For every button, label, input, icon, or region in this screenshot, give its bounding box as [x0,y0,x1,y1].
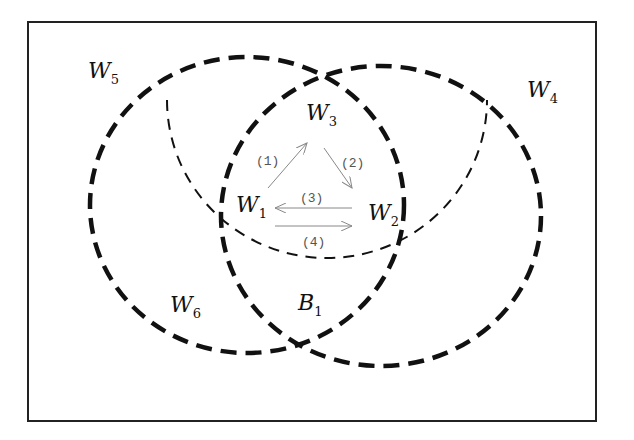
venn-diagram: (1) (2) (3) (4) W5 W4 W3 W1 W2 W6 B1 [0,0,634,440]
transition-label-1: (1) [256,154,279,169]
label-w1: W1 [236,192,267,221]
label-b1: B1 [297,290,322,319]
transition-label-4: (4) [302,235,325,250]
label-w5: W5 [88,58,119,87]
label-w3: W3 [306,100,337,129]
label-w2: W2 [368,200,399,229]
transition-label-2: (2) [341,156,364,171]
label-w6: W6 [170,292,201,321]
label-w4: W4 [527,77,558,106]
transition-label-3: (3) [300,191,323,206]
